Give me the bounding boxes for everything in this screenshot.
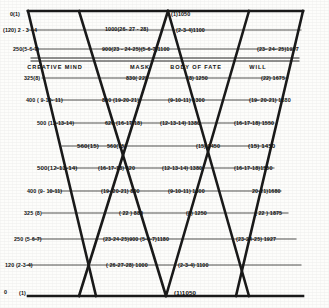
phase-label: (16-17-18) 620 <box>98 165 135 171</box>
phase-label: 400 (9- 10-11) <box>27 188 62 194</box>
phase-label: (16-17-18) 1550 <box>234 120 274 126</box>
outer-frame <box>28 11 303 296</box>
phase-label: 325 (8) <box>24 210 42 216</box>
phase-label: (9-10-11) 1300 <box>168 97 205 103</box>
phase-label: 620 (16-17-18) <box>105 120 142 126</box>
phase-label: (1)1050 <box>174 290 196 296</box>
phase-label: (23- 24- 25)1927 <box>257 46 299 52</box>
phase-label: 20-21)1680 <box>252 188 281 194</box>
phase-label: (1) <box>19 290 26 296</box>
faculty-label-creative-mind: CREATIVE MIND <box>27 64 82 70</box>
phase-label: ( 22 ) 1875 <box>255 210 282 216</box>
phase-label: 900(23 - 24-25)(5-6-7)1100 <box>102 46 170 52</box>
phase-label: 500(12-13-14) <box>37 165 78 171</box>
phase-label: (12-13-14) 1380 <box>160 120 200 126</box>
phase-label: (2-3-4) 1100 <box>178 262 209 268</box>
phase-label: (16-17-18)1550 <box>234 165 273 171</box>
phase-label: (22) 1675 <box>261 75 285 81</box>
phase-label: (9-10-11) 1300 <box>168 188 205 194</box>
faculty-label-mask: MASK <box>130 64 150 70</box>
phase-label: 0(1) <box>10 11 20 17</box>
faculty-band <box>31 58 299 61</box>
phase-label: 120 (2-3-4) <box>5 262 33 268</box>
phase-label: 250 (5-6-7) <box>14 236 42 242</box>
phase-label: (8) 1250 <box>186 210 207 216</box>
faculty-label-body-of-fate: BODY OF FATE <box>170 64 222 70</box>
phase-label: (1)1050 <box>171 11 190 17</box>
phase-label: ( 22 ) 880 <box>119 210 143 216</box>
phase-label: 0 <box>4 289 7 295</box>
phase-label: 500 (12-13-14) <box>37 120 74 126</box>
phase-label: 800 (19-20-21) <box>102 97 139 103</box>
phase-label: (2-3-4)1100 <box>176 27 205 33</box>
inner-gyres <box>79 11 249 296</box>
phase-label: (19- 20-21) 1680 <box>249 97 291 103</box>
phase-label: (120) 2 - 3 - 4 <box>3 27 37 33</box>
phase-label: (8) 1250 <box>187 75 208 81</box>
faculty-label-will: WILL <box>249 64 266 70</box>
phase-label: 325(8) <box>24 75 40 81</box>
phase-label: (19- 20-21) 800 <box>101 188 140 194</box>
phase-label: 830( 22) <box>126 75 147 81</box>
phase-label: (23-24-25) 1927 <box>236 236 276 242</box>
phase-label: 560(15) <box>77 143 99 149</box>
phase-label: (23-24-25)900 (5-6-7)1180 <box>103 236 169 242</box>
phase-label: 250(5-6-7) <box>13 46 39 52</box>
phase-label: 560(15) <box>107 143 126 149</box>
phase-label: 1000(26- 27 - 28) <box>105 26 148 32</box>
phase-label: 400 ( 9-10- 11) <box>26 97 63 103</box>
phase-label: (15) 1450 <box>196 143 220 149</box>
phase-label: (15) 1450 <box>248 143 275 149</box>
phase-label: (12-13-14) 1380 <box>162 165 202 171</box>
diagram-canvas: CREATIVE MIND MASK BODY OF FATE WILL 0(1… <box>0 0 329 308</box>
phase-label: ( 26-27-28) 1000 <box>106 262 148 268</box>
